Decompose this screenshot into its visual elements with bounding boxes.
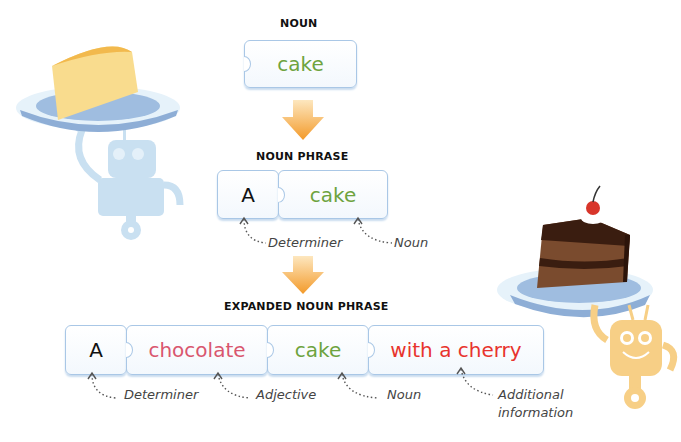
dotted-pointer-icon <box>210 370 252 404</box>
dotted-pointer-icon <box>453 365 495 399</box>
noun-label: Noun <box>387 387 421 402</box>
determiner-piece: A <box>65 325 127 375</box>
dotted-pointer-icon <box>86 370 118 404</box>
robot-sponge-cake-illustration <box>10 30 190 240</box>
additional-label-line2: information <box>498 405 573 420</box>
down-arrow-icon <box>282 256 324 294</box>
noun-word: cake <box>310 183 356 207</box>
noun-piece: cake <box>267 325 369 375</box>
determiner-label: Determiner <box>268 235 342 250</box>
down-arrow-icon <box>282 100 324 140</box>
dotted-pointer-icon <box>334 370 380 404</box>
noun-piece: cake <box>278 170 388 219</box>
puzzle-socket-icon <box>237 56 251 72</box>
determiner-word: A <box>89 338 103 362</box>
expanded-noun-phrase-heading: EXPANDED NOUN PHRASE <box>224 300 389 313</box>
noun-piece: cake <box>244 40 357 88</box>
adjective-label: Adjective <box>256 387 316 402</box>
adjective-piece: chocolate <box>126 325 268 375</box>
dotted-pointer-icon <box>350 215 394 249</box>
noun-word: cake <box>277 52 323 76</box>
noun-label: Noun <box>394 235 428 250</box>
additional-information-words: with a cherry <box>390 338 521 362</box>
determiner-piece: A <box>217 170 279 219</box>
noun-phrase-heading: NOUN PHRASE <box>256 150 348 163</box>
additional-label-line1: Additional <box>498 387 564 402</box>
noun-heading: NOUN <box>280 17 318 30</box>
dotted-pointer-icon <box>238 215 268 249</box>
noun-word: cake <box>295 338 341 362</box>
robot-chocolate-cake-illustration <box>495 180 681 415</box>
adjective-word: chocolate <box>148 338 245 362</box>
determiner-label: Determiner <box>124 387 198 402</box>
determiner-word: A <box>241 183 255 207</box>
